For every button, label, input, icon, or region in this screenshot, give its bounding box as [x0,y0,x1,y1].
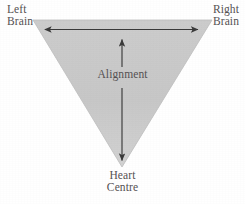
label-left-brain-line2: Brain [7,16,33,28]
label-heart-centre: Heart Centre [0,170,245,194]
label-alignment: Alignment [0,69,245,81]
label-left-brain: Left Brain [7,4,33,28]
label-right-brain-line2: Brain [213,16,239,28]
label-alignment-line1: Alignment [0,69,245,81]
label-right-brain: Right Brain [213,4,239,28]
alignment-triangle-diagram: Left Brain Right Brain Alignment Heart C… [0,0,245,204]
label-heart-centre-line2: Centre [0,182,245,194]
